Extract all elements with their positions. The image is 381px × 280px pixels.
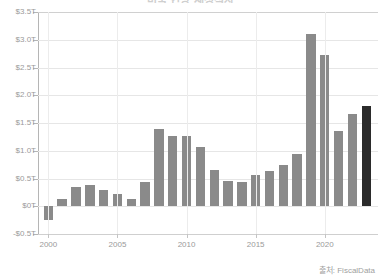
bar-2013[interactable] bbox=[223, 181, 232, 206]
gridline-vertical bbox=[325, 12, 326, 234]
bar-2011[interactable] bbox=[196, 147, 205, 206]
x-axis-label: 2000 bbox=[28, 241, 68, 249]
y-axis-label: $0T bbox=[0, 202, 36, 210]
y-axis-label: $1.0T bbox=[0, 147, 36, 155]
x-axis-tick-mark bbox=[325, 234, 326, 238]
x-axis-tick-mark bbox=[48, 234, 49, 238]
gridline-vertical bbox=[256, 12, 257, 234]
bar-2004[interactable] bbox=[99, 190, 108, 207]
bar-2001[interactable] bbox=[57, 199, 66, 206]
gridline-horizontal bbox=[38, 12, 378, 13]
y-axis-label: $3.5T bbox=[0, 8, 36, 16]
x-axis-label: 2010 bbox=[167, 241, 207, 249]
x-axis-tick-mark bbox=[256, 234, 257, 238]
gridline-horizontal bbox=[38, 40, 378, 41]
gridline-vertical bbox=[117, 12, 118, 234]
bar-2017[interactable] bbox=[279, 165, 288, 207]
gridline-vertical bbox=[187, 12, 188, 234]
y-axis-label: $2.5T bbox=[0, 64, 36, 72]
y-axis-label: $2.0T bbox=[0, 91, 36, 99]
gridline-horizontal bbox=[38, 234, 378, 235]
bar-2021[interactable] bbox=[334, 131, 343, 206]
x-axis-label: 2005 bbox=[97, 241, 137, 249]
bar-2003[interactable] bbox=[85, 185, 94, 207]
chart-title: 미국 연방 재정적자 bbox=[0, 0, 381, 3]
gridline-horizontal bbox=[38, 206, 378, 207]
bar-2008[interactable] bbox=[154, 129, 163, 207]
x-axis-tick-mark bbox=[187, 234, 188, 238]
bar-2002[interactable] bbox=[71, 187, 80, 206]
bar-2009[interactable] bbox=[168, 136, 177, 206]
x-axis-label: 2015 bbox=[236, 241, 276, 249]
y-axis-label: -$0.5T bbox=[0, 230, 36, 238]
y-axis-label: $0.5T bbox=[0, 175, 36, 183]
bar-2023[interactable] bbox=[362, 106, 371, 206]
bar-2012[interactable] bbox=[210, 170, 219, 207]
y-axis-label: $3.0T bbox=[0, 36, 36, 44]
bar-2007[interactable] bbox=[140, 182, 149, 206]
y-axis-label: $1.5T bbox=[0, 119, 36, 127]
plot-area bbox=[38, 12, 378, 234]
bar-2014[interactable] bbox=[237, 182, 246, 206]
x-axis-label: 2020 bbox=[305, 241, 345, 249]
x-axis-tick-mark bbox=[117, 234, 118, 238]
bar-2006[interactable] bbox=[127, 199, 136, 206]
bar-2019[interactable] bbox=[306, 34, 315, 206]
bar-2018[interactable] bbox=[292, 154, 301, 207]
bar-chart: 미국 연방 재정적자 $3.5T$3.0T$2.5T$2.0T$1.5T$1.0… bbox=[0, 0, 381, 280]
bar-2022[interactable] bbox=[348, 114, 357, 206]
source-attribution: 출처: FiscalData bbox=[319, 264, 375, 275]
bar-2016[interactable] bbox=[265, 171, 274, 206]
gridline-vertical bbox=[48, 12, 49, 234]
